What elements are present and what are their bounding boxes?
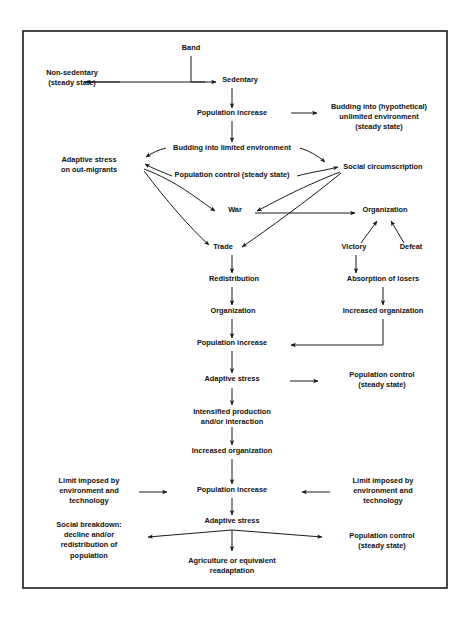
node-victory: Victory — [342, 242, 368, 251]
node-line: Organization — [362, 205, 408, 214]
edge-victory-to-organization — [361, 221, 377, 243]
node-line: War — [228, 205, 242, 214]
node-adaptive-stress-2: Adaptive stress — [204, 516, 259, 525]
node-line: Social circumscription — [343, 162, 423, 171]
node-line: readaptation — [210, 566, 255, 575]
node-line: Adaptive stress — [204, 374, 259, 383]
node-band: Band — [182, 43, 201, 52]
node-population-increase-2: Population increase — [197, 338, 267, 347]
node-adaptive-stress-out-migrants: Adaptive stresson out-migrants — [61, 155, 117, 174]
node-line: environment and — [59, 486, 119, 495]
node-line: Population increase — [197, 485, 267, 494]
node-line: technology — [69, 496, 109, 505]
node-organization-1: Organization — [362, 205, 408, 214]
nodes-layer: BandNon-sedentary(steady state)Sedentary… — [46, 43, 427, 575]
node-line: Agriculture or equivalent — [188, 556, 276, 565]
node-sedentary: Sedentary — [222, 75, 259, 84]
node-line: Non-sedentary — [46, 68, 99, 77]
node-line: (steady state) — [358, 541, 406, 550]
node-population-increase-1: Population increase — [197, 108, 267, 117]
node-agriculture-readaptation: Agriculture or equivalentreadaptation — [188, 556, 276, 575]
node-line: unlimited environment — [339, 112, 419, 121]
node-line: Population increase — [197, 338, 267, 347]
node-line: Defeat — [400, 242, 423, 251]
node-line: Social breakdown: — [56, 520, 121, 529]
node-non-sedentary: Non-sedentary(steady state) — [46, 68, 99, 87]
edge-budding-limited-right — [300, 148, 325, 162]
node-line: Limit imposed by — [353, 476, 415, 485]
node-line: on out-migrants — [61, 165, 117, 174]
node-war: War — [228, 205, 242, 214]
node-line: Victory — [342, 242, 368, 251]
node-budding-unlimited: Budding into (hypothetical)unlimited env… — [331, 102, 428, 131]
node-line: Population control (steady state) — [175, 170, 291, 179]
node-line: Organization — [210, 306, 256, 315]
node-line: Increased organization — [343, 306, 424, 315]
node-increased-organization-1: Increased organization — [343, 306, 424, 315]
node-limit-imposed-right: Limit imposed byenvironment andtechnolog… — [353, 476, 415, 505]
node-line: Adaptive stress — [61, 155, 116, 164]
edge-left-hub-to-trade — [144, 171, 209, 245]
node-organization-2: Organization — [210, 306, 256, 315]
node-budding-limited: Budding into limited environment — [173, 143, 291, 152]
node-line: population — [70, 551, 108, 560]
node-intensified-production: Intensified productionand/or interaction — [193, 407, 271, 426]
flowchart-canvas: BandNon-sedentary(steady state)Sedentary… — [0, 0, 470, 618]
node-trade: Trade — [213, 242, 233, 251]
node-increased-organization-2: Increased organization — [192, 446, 273, 455]
node-population-control-steady-3: Population control(steady state) — [349, 531, 414, 550]
node-line: (steady state) — [358, 380, 406, 389]
node-line: Adaptive stress — [204, 516, 259, 525]
node-adaptive-stress-1: Adaptive stress — [204, 374, 259, 383]
node-line: (steady state) — [355, 122, 403, 131]
node-line: Increased organization — [192, 446, 273, 455]
edge-fan-right — [232, 530, 322, 537]
node-population-control-steady-1: Population control (steady state) — [175, 170, 291, 179]
edge-fan-left — [148, 530, 232, 537]
flowchart-diagram: BandNon-sedentary(steady state)Sedentary… — [0, 0, 470, 618]
node-redistribution: Redistribution — [209, 274, 260, 283]
node-line: Intensified production — [193, 407, 271, 416]
node-limit-imposed-left: Limit imposed byenvironment andtechnolog… — [59, 476, 121, 505]
node-line: technology — [363, 496, 403, 505]
node-population-increase-3: Population increase — [197, 485, 267, 494]
node-population-control-steady-2: Population control(steady state) — [349, 370, 414, 389]
node-line: Absorption of losers — [347, 274, 419, 283]
edge-hub-right-to-popctl — [297, 167, 338, 176]
node-line: Budding into (hypothetical) — [331, 102, 428, 111]
node-line: Trade — [213, 242, 233, 251]
edge-defeat-to-organization — [391, 221, 404, 243]
node-line: Sedentary — [222, 75, 259, 84]
node-line: environment and — [353, 486, 413, 495]
node-line: Population increase — [197, 108, 267, 117]
node-line: (steady state) — [48, 78, 96, 87]
edge-budding-limited-left — [146, 148, 166, 157]
node-line: redistribution of — [61, 540, 118, 549]
node-line: and/or interaction — [201, 417, 264, 426]
node-social-breakdown: Social breakdown:decline and/orredistrib… — [56, 520, 121, 560]
edge-right-hub-to-trade — [242, 173, 341, 247]
node-defeat: Defeat — [400, 242, 423, 251]
node-absorption-of-losers: Absorption of losers — [347, 274, 419, 283]
node-line: Band — [182, 43, 201, 52]
node-social-circumscription: Social circumscription — [343, 162, 423, 171]
edge-hub-left-to-popctl — [145, 164, 172, 176]
node-line: Population control — [349, 531, 414, 540]
node-line: Population control — [349, 370, 414, 379]
node-line: Limit imposed by — [59, 476, 121, 485]
edge-increased-org-elbow — [291, 319, 383, 345]
node-line: decline and/or — [64, 530, 114, 539]
node-line: Redistribution — [209, 274, 260, 283]
node-line: Budding into limited environment — [173, 143, 291, 152]
